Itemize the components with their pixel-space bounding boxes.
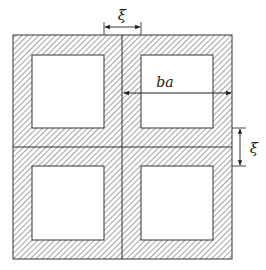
- cell-width-label: ba: [156, 74, 173, 90]
- right-gap-label: ξ: [250, 139, 259, 157]
- void-top-right: [141, 55, 213, 128]
- void-bottom-right: [141, 166, 213, 240]
- void-top-left: [32, 55, 104, 128]
- top-gap-dimension: ξ: [104, 6, 141, 35]
- cell-array-diagram: ξ ba ξ: [0, 0, 266, 270]
- void-bottom-left: [32, 166, 104, 240]
- top-gap-label: ξ: [118, 6, 127, 24]
- right-gap-dimension: ξ: [232, 128, 259, 166]
